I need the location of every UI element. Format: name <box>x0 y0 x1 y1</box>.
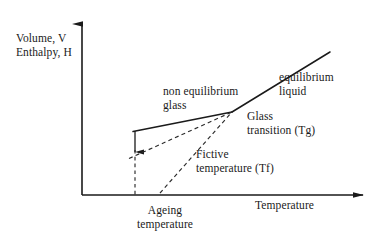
label-ageing-temperature-line1: Ageing <box>148 204 182 216</box>
label-glass-transition-line1: Glass <box>247 110 273 122</box>
label-non-equilibrium-glass: non equilibriumglass <box>163 84 238 112</box>
x-axis-label: Temperature <box>255 198 314 212</box>
label-fictive-temperature-line1: Fictive <box>196 148 229 160</box>
label-non-equilibrium-glass-line1: non equilibrium <box>163 85 238 97</box>
label-glass-transition: Glasstransition (Tg) <box>247 109 315 137</box>
label-ageing-temperature: Ageingtemperature <box>137 203 193 231</box>
label-equilibrium-liquid-line1: equilibrium <box>279 71 334 83</box>
curve-non-equilibrium-glass <box>133 112 232 132</box>
y-axis-label-line1: Volume, V <box>16 32 66 44</box>
y-axis-label-line2: Enthalpy, H <box>16 46 72 58</box>
label-non-equilibrium-glass-line2: glass <box>163 99 187 111</box>
label-glass-transition-line2: transition (Tg) <box>247 124 315 136</box>
label-ageing-temperature-line2: temperature <box>137 218 193 230</box>
label-equilibrium-liquid: equilibriumliquid <box>279 70 334 98</box>
label-equilibrium-liquid-line2: liquid <box>279 85 306 97</box>
label-fictive-temperature-line2: temperature (Tf) <box>196 162 274 174</box>
label-fictive-temperature: Fictivetemperature (Tf) <box>196 147 274 175</box>
y-axis-label: Volume, VEnthalpy, H <box>16 31 72 59</box>
glass-transition-diagram: Volume, VEnthalpy, H Temperature non equ… <box>0 0 381 245</box>
